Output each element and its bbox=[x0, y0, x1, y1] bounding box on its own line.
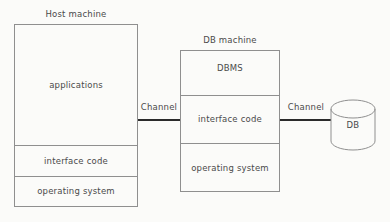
host-layer-operating-system: operating system bbox=[14, 187, 138, 196]
channel-label-right: Channel bbox=[281, 103, 331, 112]
host-divider-applications-interface bbox=[14, 145, 138, 146]
db-layer-dbms: DBMS bbox=[180, 64, 280, 73]
db-machine-title: DB machine bbox=[180, 36, 280, 45]
host-layer-interface-code: interface code bbox=[14, 157, 138, 166]
channel-line-left bbox=[138, 119, 180, 121]
db-divider-interface-os bbox=[180, 143, 280, 144]
channel-label-left: Channel bbox=[138, 103, 180, 112]
db-layer-operating-system: operating system bbox=[180, 164, 280, 173]
host-machine-title: Host machine bbox=[14, 10, 138, 19]
db-layer-interface-code: interface code bbox=[180, 115, 280, 124]
diagram-canvas: Host machine applications interface code… bbox=[0, 0, 390, 222]
channel-line-right bbox=[280, 119, 331, 121]
host-divider-interface-os bbox=[14, 176, 138, 177]
host-layer-applications: applications bbox=[14, 81, 138, 90]
host-machine-box bbox=[14, 24, 138, 207]
db-divider-dbms-interface bbox=[180, 95, 280, 96]
database-label: DB bbox=[330, 121, 376, 130]
